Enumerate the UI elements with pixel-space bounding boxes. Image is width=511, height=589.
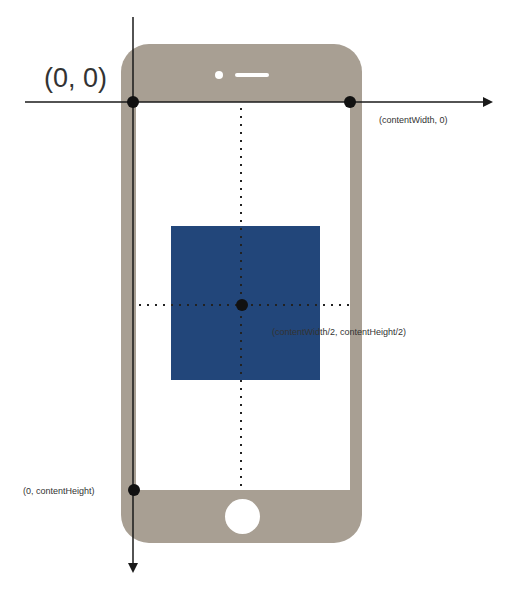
center-point [236, 299, 248, 311]
center-label: (contentWidth/2, contentHeight/2) [272, 327, 406, 337]
top-right-label: (contentWidth, 0) [379, 115, 448, 125]
origin-point [127, 96, 139, 108]
bottom-left-label: (0, contentHeight) [23, 486, 95, 496]
origin-label: (0, 0) [44, 63, 107, 93]
bottom-left-point [128, 484, 140, 496]
x-axis-arrow-icon [483, 97, 493, 107]
y-axis-arrow-icon [128, 563, 138, 573]
top-right-point [344, 96, 356, 108]
